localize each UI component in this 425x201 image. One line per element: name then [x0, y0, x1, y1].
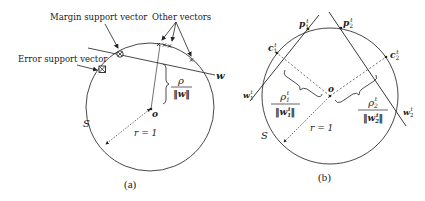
c2-label: c2t: [390, 48, 399, 61]
brace-a: [163, 64, 169, 104]
radius-label-b: r = 1: [310, 123, 333, 133]
origin-point-b: [329, 95, 332, 98]
w-label: w: [216, 70, 225, 81]
rho2-label: ρ2t: [367, 95, 378, 109]
p1-label: p1t: [299, 17, 309, 30]
rho1-label: ρ1t: [279, 89, 290, 103]
w2-label: w2t: [403, 106, 413, 118]
normal-dashed-2: [330, 57, 386, 96]
panel-a: w Margin support vector Other vectors Er…: [18, 12, 225, 191]
norm-w1-label: ‖w1t‖: [275, 106, 295, 118]
radius-label-a: r = 1: [134, 128, 157, 138]
c2-point: [385, 56, 388, 59]
arrow-error-sv: [77, 65, 97, 70]
rho-label: ρ: [177, 75, 184, 86]
brace-b1: [284, 70, 322, 97]
p2-label: p2t: [343, 16, 353, 29]
c1-label: c1t: [268, 41, 277, 54]
error-support-vector-marker: [99, 66, 106, 73]
w1-label: w1t: [243, 89, 253, 101]
other-vectors-label: Other vectors: [152, 12, 211, 22]
caption-a: (a): [124, 178, 137, 191]
origin-label-a: o: [152, 109, 158, 119]
margin-support-vector-label: Margin support vector: [50, 12, 148, 22]
sphere-label-a: S: [83, 118, 90, 129]
sphere-label-b: S: [261, 130, 268, 141]
p2-point: [340, 27, 343, 30]
norm-w2-label: ‖w2t‖: [363, 112, 383, 124]
margin-support-vector-marker: [117, 51, 123, 57]
origin-label-b: o: [328, 84, 334, 94]
error-support-vector-label: Error support vector: [18, 54, 108, 64]
other-vectors-markers: [157, 43, 193, 62]
arrow-other-3: [176, 22, 191, 56]
radius-line-a: [106, 109, 150, 144]
norm-w-label: ‖w‖: [173, 89, 190, 100]
arrow-margin-sv: [105, 24, 118, 48]
figure: w Margin support vector Other vectors Er…: [0, 0, 425, 201]
caption-b: (b): [318, 171, 331, 184]
panel-b: p1t p2t c1t c2t w1t w2t ρ1t ‖w1t‖ ρ2t ‖w…: [243, 12, 413, 184]
normal-line: [151, 45, 160, 109]
